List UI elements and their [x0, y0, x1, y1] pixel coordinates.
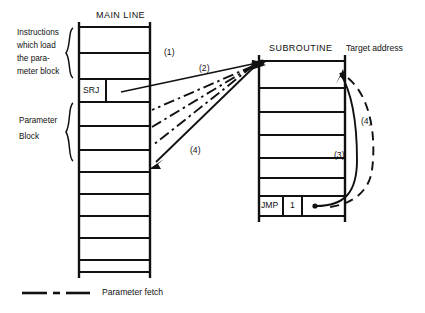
- jmp-opcode-cell: JMP: [261, 200, 278, 210]
- subroutine-header: SUBROUTINE: [269, 43, 333, 55]
- instructions-label-line1: Instructions: [17, 27, 59, 39]
- brace-instructions: [66, 28, 73, 78]
- step-marker-2: (2): [199, 63, 210, 75]
- jmp-operand-cell: 1: [290, 200, 295, 210]
- instructions-label-line3: the para-: [17, 53, 50, 65]
- parameter-block-label-line1: Parameter: [19, 115, 57, 127]
- instructions-label-line2: which load: [17, 40, 56, 52]
- step-marker-1: (1): [164, 47, 175, 59]
- step-marker-4-left: (4): [190, 145, 201, 157]
- main-line-column-frame: [79, 22, 150, 278]
- parameter-block-label-line2: Block: [19, 131, 39, 143]
- step-marker-3: (3): [334, 150, 345, 162]
- diagram-canvas: MAIN LINE SUBROUTINE Target address Inst…: [0, 0, 425, 313]
- flow-curve-3-solid: [312, 69, 357, 209]
- brace-parameter-block: [66, 103, 73, 161]
- legend-label: Parameter fetch: [102, 287, 163, 299]
- parameter-fetch-lines: [152, 66, 253, 146]
- subroutine-column-frame: [259, 55, 345, 222]
- srj-opcode-cell: SRJ: [83, 85, 99, 95]
- step-marker-4-right: (4): [361, 116, 372, 128]
- main-line-header: MAIN LINE: [96, 10, 145, 22]
- instructions-label-line4: meter block: [17, 66, 59, 78]
- target-address-label: Target address: [346, 43, 403, 55]
